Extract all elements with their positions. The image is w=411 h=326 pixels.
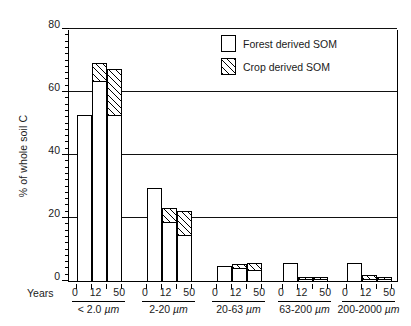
y-tick-0 [62, 280, 69, 281]
y-minor-tick [65, 267, 69, 268]
y-minor-tick [65, 85, 69, 86]
fraction-label-4: 200-2000 µm [324, 303, 411, 315]
legend-label-forest: Forest derived SOM [243, 38, 337, 50]
y-minor-tick [65, 141, 69, 142]
y-minor-tick [65, 53, 69, 54]
bar-0-1[interactable] [92, 63, 107, 281]
legend-label-crop: Crop derived SOM [243, 61, 330, 73]
y-minor-tick [65, 78, 69, 79]
bar-segment-forest [377, 279, 392, 282]
year-label-2-2: 50 [253, 286, 265, 298]
y-minor-tick [65, 274, 69, 275]
y-minor-tick [65, 186, 69, 187]
year-tick-labels-4: 01250 [342, 286, 395, 298]
y-minor-tick [65, 242, 69, 243]
bar-segment-forest [147, 188, 162, 283]
bar-0-2[interactable] [107, 69, 122, 281]
group-underline-2 [212, 301, 265, 302]
bar-2-1[interactable] [232, 264, 247, 281]
bar-3-0[interactable] [283, 263, 298, 281]
bar-segment-forest [283, 263, 298, 282]
bar-1-2[interactable] [177, 211, 192, 281]
y-minor-tick [65, 249, 69, 250]
year-label-0-2: 50 [113, 286, 125, 298]
legend-swatch-forest-icon [221, 35, 236, 52]
y-minor-tick [65, 198, 69, 199]
bar-segment-forest [92, 81, 107, 283]
group-underline-3 [278, 301, 331, 302]
y-minor-tick [65, 173, 69, 174]
bar-1-0[interactable] [147, 188, 162, 281]
year-tick-labels-3: 01250 [278, 286, 331, 298]
year-label-3-0: 0 [278, 286, 284, 298]
y-minor-tick [65, 104, 69, 105]
y-minor-tick [65, 223, 69, 224]
legend-item-forest: Forest derived SOM [221, 35, 337, 52]
y-minor-tick [65, 123, 69, 124]
y-tick-label-0: 0 [54, 270, 60, 282]
y-minor-tick [65, 47, 69, 48]
bar-segment-forest [177, 235, 192, 282]
y-minor-tick [65, 255, 69, 256]
bar-segment-forest [362, 279, 377, 282]
bar-4-0[interactable] [347, 263, 362, 281]
y-minor-tick [65, 60, 69, 61]
year-label-1-2: 50 [183, 286, 195, 298]
y-minor-tick [65, 236, 69, 237]
y-minor-tick [65, 192, 69, 193]
y-tick-80 [62, 28, 69, 29]
bar-segment-forest [77, 115, 92, 282]
group-underline-4 [342, 301, 395, 302]
bar-4-2[interactable] [377, 277, 392, 281]
y-tick-40 [62, 154, 69, 155]
year-label-3-2: 50 [319, 286, 331, 298]
year-tick-labels-2: 01250 [212, 286, 265, 298]
y-minor-tick [65, 160, 69, 161]
bar-segment-forest [162, 222, 177, 282]
legend-swatch-crop-icon [221, 58, 236, 75]
bar-segment-forest [298, 279, 313, 282]
year-label-1-0: 0 [142, 286, 148, 298]
year-label-2-0: 0 [212, 286, 218, 298]
year-label-0-0: 0 [72, 286, 78, 298]
y-minor-tick [65, 230, 69, 231]
bar-segment-crop [107, 69, 122, 116]
year-label-3-1: 12 [296, 286, 308, 298]
bar-group-4 [347, 263, 392, 281]
legend: Forest derived SOM Crop derived SOM [221, 35, 337, 81]
y-tick-label-60: 60 [48, 81, 60, 93]
y-minor-tick [65, 34, 69, 35]
y-minor-tick [65, 97, 69, 98]
bar-2-0[interactable] [217, 266, 232, 281]
y-minor-tick [65, 167, 69, 168]
y-minor-tick [65, 129, 69, 130]
y-tick-label-40: 40 [48, 144, 60, 156]
figure-bar-chart-soil-carbon: % of whole soil C 020406080 Forest deriv… [0, 0, 411, 326]
bar-4-1[interactable] [362, 275, 377, 281]
bar-1-1[interactable] [162, 208, 177, 281]
bar-segment-crop [162, 208, 177, 224]
bar-segment-forest [313, 279, 328, 282]
bar-0-0[interactable] [77, 115, 92, 281]
x-axis-title: Years [27, 287, 53, 299]
bar-segment-forest [347, 263, 362, 282]
bar-3-2[interactable] [313, 277, 328, 281]
y-minor-tick [65, 72, 69, 73]
bar-group-1 [147, 188, 192, 281]
bar-segment-forest [217, 266, 232, 282]
bar-segment-crop [177, 211, 192, 236]
gridline-80 [69, 28, 397, 29]
bar-segment-crop [92, 63, 107, 82]
bar-3-1[interactable] [298, 277, 313, 281]
y-minor-tick [65, 179, 69, 180]
x-axis-labels: Years 01250< 2.0 µm012502-20 µm0125020-6… [0, 284, 411, 326]
y-tick-label-80: 80 [48, 18, 60, 30]
y-axis-title: % of whole soil C [17, 76, 29, 236]
y-minor-tick [65, 148, 69, 149]
y-minor-tick [65, 66, 69, 67]
y-minor-tick [65, 204, 69, 205]
year-label-4-1: 12 [360, 286, 372, 298]
year-label-4-0: 0 [342, 286, 348, 298]
y-minor-tick [65, 135, 69, 136]
bar-2-2[interactable] [247, 263, 262, 281]
